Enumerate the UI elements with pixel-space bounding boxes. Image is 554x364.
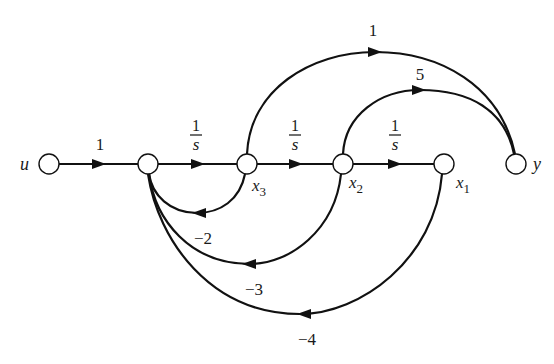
node-n1: [138, 154, 158, 174]
arrow-icon: [191, 159, 205, 169]
svg-text:s: s: [292, 135, 299, 154]
diagram-svg: u y x3 x2 x1 1 1 s 1 s 1 s 1 5 −2 −3 −4: [0, 0, 554, 364]
arrow-icon: [412, 85, 426, 95]
signal-flow-graph: u y x3 x2 x1 1 1 s 1 s 1 s 1 5 −2 −3 −4: [0, 0, 554, 364]
label-u: u: [20, 154, 29, 174]
label-x3: x3: [251, 176, 266, 199]
gain-x3-y: 1: [369, 21, 378, 40]
label-x1: x1: [455, 173, 470, 196]
gain-x1-n1: −4: [298, 330, 317, 349]
gain-n1-x3: 1 s: [190, 117, 202, 154]
arrow-icon: [192, 208, 206, 218]
node-u: [39, 154, 59, 174]
svg-text:1: 1: [192, 117, 200, 134]
arrow-icon: [297, 309, 311, 319]
gain-u-n1: 1: [96, 135, 105, 154]
arrow-icon: [92, 159, 106, 169]
svg-text:1: 1: [291, 117, 299, 134]
svg-text:s: s: [392, 135, 399, 154]
gain-x3-x2: 1 s: [289, 117, 301, 154]
gain-x3-n1: −2: [194, 229, 212, 248]
label-x2: x2: [348, 173, 363, 196]
arrow-icon: [242, 259, 256, 269]
edge-x1-n1: [148, 174, 442, 314]
node-x1: [434, 154, 454, 174]
svg-text:s: s: [193, 135, 200, 154]
label-y: y: [531, 154, 541, 174]
edge-x3-y: [247, 52, 515, 154]
node-y: [506, 154, 526, 174]
gain-x2-y: 5: [416, 65, 425, 84]
gain-x2-n1: −3: [245, 280, 263, 299]
arrow-icon: [289, 159, 303, 169]
arrow-icon: [368, 47, 382, 57]
gain-x2-x1: 1 s: [389, 117, 401, 154]
node-x3: [237, 154, 257, 174]
edge-x3-n1: [149, 174, 245, 213]
node-x2: [333, 154, 353, 174]
svg-text:1: 1: [391, 117, 399, 134]
arrow-icon: [388, 159, 402, 169]
